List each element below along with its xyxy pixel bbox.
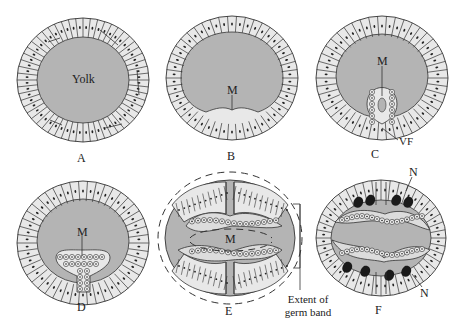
panel-f <box>316 177 446 296</box>
panel-f-label: F <box>375 304 382 316</box>
germ-band-extent-label: Extent of germ band <box>278 293 338 319</box>
panel-c-m-label: M <box>377 55 388 67</box>
panel-c <box>316 16 448 140</box>
panel-a-label: A <box>77 152 86 164</box>
panel-b <box>166 16 298 140</box>
panel-c-vf-label: VF <box>399 136 413 147</box>
embryo-development-diagram: .ol{stroke:#333;stroke-width:0.8;fill:no… <box>0 0 462 331</box>
panel-f-n-label-bottom: N <box>420 287 429 299</box>
panel-d-label: D <box>77 301 86 313</box>
panel-e-label: E <box>225 305 232 317</box>
panel-d <box>17 181 149 305</box>
yolk-label: Yolk <box>72 73 95 85</box>
panel-b-m-label: M <box>227 84 238 96</box>
panel-f-n-label-top: N <box>409 166 418 178</box>
panel-d-m-label: M <box>77 226 88 238</box>
panel-b-label: B <box>227 150 235 162</box>
panel-e-m-label: M <box>225 233 236 245</box>
diagram-canvas: .ol{stroke:#333;stroke-width:0.8;fill:no… <box>0 0 462 331</box>
panel-c-label: C <box>371 148 379 160</box>
